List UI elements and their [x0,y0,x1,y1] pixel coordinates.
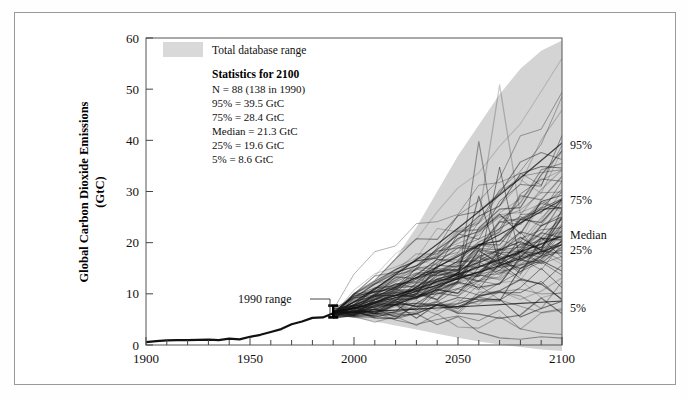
right-label-25: 25% [570,243,592,257]
y-tick-label-40: 40 [126,133,139,148]
stats-line-1: 95% = 39.5 GtC [212,97,284,109]
stats-title: Statistics for 2100 [212,68,300,80]
y-axis-ticks: 0102030405060 [126,31,153,353]
legend-swatch [163,42,203,57]
right-label-5: 5% [570,301,586,315]
chart-svg: 0102030405060 19001950200020502100 Globa… [0,0,688,399]
right-label-median: Median [570,228,607,242]
figure-root: 0102030405060 19001950200020502100 Globa… [0,0,688,399]
stats-line-0: N = 88 (138 in 1990) [212,83,306,96]
y-tick-label-50: 50 [126,82,139,97]
x-tick-label-2100: 2100 [549,351,575,366]
y-tick-label-30: 30 [126,184,139,199]
right-label-75: 75% [570,193,592,207]
stats-line-4: 25% = 19.6 GtC [212,139,284,151]
stats-line-2: 75% = 28.4 GtC [212,111,284,123]
y-tick-label-60: 60 [126,31,139,46]
plot-container: 0102030405060 19001950200020502100 Globa… [0,0,688,399]
historical-emissions-line [146,313,333,342]
y-axis-title-line2: (GtC) [93,176,107,207]
y-tick-label-10: 10 [126,286,139,301]
x-tick-label-2050: 2050 [445,351,471,366]
range-1990-label: 1990 range [238,292,292,306]
y-tick-label-20: 20 [126,235,139,250]
stats-line-3: Median = 21.3 GtC [212,125,298,137]
right-label-95: 95% [570,138,592,152]
stats-line-5: 5% = 8.6 GtC [212,153,273,165]
x-tick-label-1900: 1900 [133,351,159,366]
x-tick-label-2000: 2000 [341,351,367,366]
x-tick-label-1950: 1950 [237,351,263,366]
y-axis-title-line1: Global Carbon Dioxide Emissions [77,101,91,282]
legend-swatch-label: Total database range [212,44,306,57]
range-1990-leader-line [310,299,330,314]
